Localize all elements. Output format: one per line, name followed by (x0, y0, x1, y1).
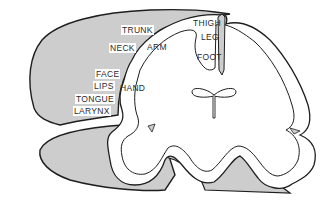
label-leg: LEG (200, 32, 220, 42)
label-arm: ARM (146, 42, 168, 52)
label-foot: FOOT (196, 52, 223, 62)
label-neck: NECK (109, 43, 136, 53)
label-trunk: TRUNK (121, 25, 154, 35)
label-tongue: TONGUE (75, 94, 115, 104)
label-thigh: THIGH (192, 18, 222, 28)
label-lips: LIPS (93, 81, 115, 91)
ventricle-stem (213, 96, 215, 118)
label-hand: HAND (119, 83, 146, 93)
brain-illustration (0, 0, 327, 201)
label-face: FACE (95, 69, 120, 79)
label-larynx: LARYNX (73, 106, 111, 116)
brain-section-figure: TRUNK NECK ARM THIGH LEG FOOT FACE LIPS … (0, 0, 327, 201)
